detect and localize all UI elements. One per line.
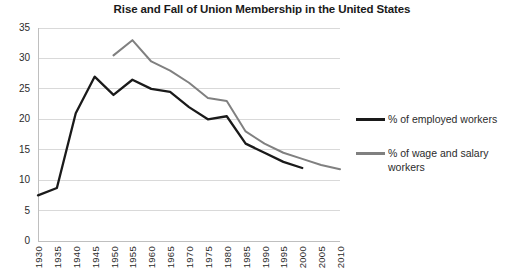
legend-swatch-icon (356, 118, 385, 121)
y-tick-label: 5 (4, 206, 30, 216)
x-tick-label: 1955 (127, 246, 138, 268)
x-tick-label: 1935 (52, 246, 63, 268)
legend-entry: % of employed workers (356, 112, 522, 126)
chart-legend: % of employed workers% of wage and salar… (356, 112, 522, 194)
legend-label: % of wage and salary workers (388, 146, 522, 174)
y-tick-label: 30 (4, 53, 30, 63)
x-tick-label: 1980 (222, 246, 233, 268)
x-tick-label: 1940 (71, 246, 82, 268)
axis-lines (38, 28, 340, 241)
y-tick-label: 20 (4, 114, 30, 124)
legend-entry: % of wage and salary workers (356, 146, 522, 174)
x-tick-label: 1930 (33, 246, 44, 268)
chart-figure: Rise and Fall of Union Membership in the… (0, 0, 524, 279)
y-tick-label: 25 (4, 84, 30, 94)
x-tick-label: 1965 (165, 246, 176, 268)
x-tick-label: 1990 (260, 246, 271, 268)
y-tick-label: 0 (4, 236, 30, 246)
series-lines (38, 40, 340, 195)
x-tick-label: 2000 (297, 246, 308, 268)
y-tick-label: 35 (4, 23, 30, 33)
x-tick-label: 1960 (146, 246, 157, 268)
x-tick-label: 1995 (278, 246, 289, 268)
gridlines (38, 28, 340, 241)
x-tick-label: 1985 (241, 246, 252, 268)
x-tick-label: 1975 (203, 246, 214, 268)
x-tick-label: 2005 (316, 246, 327, 268)
x-tick-label: 2010 (335, 246, 346, 268)
series-line-1 (38, 77, 302, 196)
legend-label: % of employed workers (388, 112, 522, 126)
legend-swatch-icon (356, 152, 385, 155)
y-tick-label: 15 (4, 145, 30, 155)
x-tick-label: 1950 (109, 246, 120, 268)
x-tick-label: 1945 (90, 246, 101, 268)
y-tick-label: 10 (4, 175, 30, 185)
x-tick-label: 1970 (184, 246, 195, 268)
